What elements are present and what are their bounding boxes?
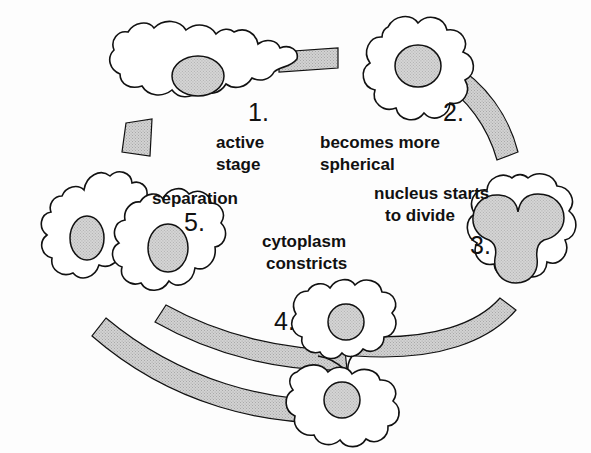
- stage-2-label-line2: spherical: [320, 155, 395, 174]
- stage-4-lower-nucleus: [324, 382, 360, 418]
- stage-3-number: 3.: [470, 231, 491, 259]
- stage-5-number: 5.: [184, 208, 205, 236]
- stage-4-label-line1: cytoplasm: [262, 232, 346, 251]
- stage-2-nucleus: [395, 45, 441, 87]
- stage-1-label-line2: stage: [216, 155, 260, 174]
- stage-5-inner-nucleus: [148, 224, 188, 272]
- stage-4-cell-upper: [292, 280, 396, 359]
- stage-4-cell-lower: [286, 365, 399, 447]
- stage-1-label-line1: active: [216, 133, 264, 152]
- stage-5-outer-nucleus: [70, 216, 104, 260]
- diagram-canvas: 1. active stage 2. becomes more spherica…: [0, 0, 591, 453]
- cell-division-cycle-diagram: 1. active stage 2. becomes more spherica…: [0, 0, 591, 453]
- stage-4-upper-nucleus: [328, 304, 364, 340]
- stage-2-label-line1: becomes more: [320, 133, 440, 152]
- stage-4-number: 4.: [274, 307, 295, 335]
- stage-1-nucleus: [172, 56, 224, 96]
- stage-1-label-group: 1. active stage: [216, 98, 269, 174]
- stage-1-number: 1.: [248, 98, 269, 126]
- stage-2-number: 2.: [443, 98, 464, 126]
- stage-1-cell: [110, 21, 298, 96]
- arrowhead-into-stage1: [122, 119, 152, 156]
- stage-5-label-line1: separation: [152, 189, 238, 208]
- stage-3-label-line1: nucleus starts: [374, 184, 489, 203]
- stage-3-label-line2: to divide: [385, 206, 455, 225]
- stage-4-label-line2: constricts: [266, 254, 347, 273]
